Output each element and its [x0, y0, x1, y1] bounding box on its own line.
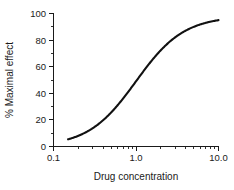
x-axis: 0.11.010.0	[47, 147, 228, 164]
x-tick-label: 0.1	[47, 152, 60, 163]
y-tick-label: 0	[41, 141, 46, 152]
x-tick-label: 1.0	[129, 152, 142, 163]
chart-canvas: 020406080100 0.11.010.0 Drug concentrati…	[0, 0, 234, 190]
x-axis-title: Drug concentration	[94, 171, 179, 182]
y-tick-label: 80	[35, 35, 46, 46]
dose-response-curve	[68, 20, 218, 139]
dose-response-figure: 020406080100 0.11.010.0 Drug concentrati…	[0, 0, 234, 190]
y-tick-label: 20	[35, 114, 46, 125]
y-tick-label: 40	[35, 88, 46, 99]
y-tick-label: 100	[30, 8, 46, 19]
y-axis: 020406080100	[30, 8, 53, 152]
data-series-curve	[68, 20, 218, 139]
axis-labels: Drug concentration% Maximal effect	[4, 42, 178, 182]
y-tick-label: 60	[35, 61, 46, 72]
y-axis-title: % Maximal effect	[4, 42, 15, 118]
x-tick-label: 10.0	[209, 152, 228, 163]
